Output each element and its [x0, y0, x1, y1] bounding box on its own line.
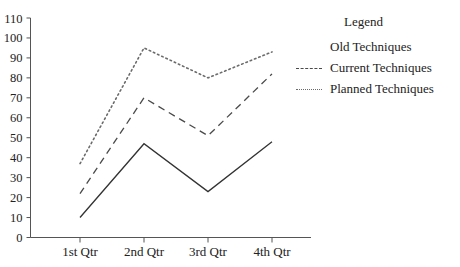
- y-axis-tick-label: 40: [10, 151, 23, 165]
- legend-swatch-dashed-line-icon: [296, 63, 322, 73]
- x-axis-tick-label: 2nd Qtr: [124, 244, 165, 259]
- y-axis-tick-label: 10: [10, 211, 23, 225]
- y-axis-tick-label: 90: [10, 51, 23, 65]
- series-line-solid: [80, 142, 272, 218]
- y-axis-tick-label: 100: [4, 31, 23, 45]
- legend-swatch-solid-line-icon: [296, 42, 322, 52]
- y-axis-tick-label: 60: [10, 111, 23, 125]
- legend-item-current-techniques: Current Techniques: [296, 57, 460, 78]
- x-axis-tick-label: 3rd Qtr: [189, 244, 228, 259]
- y-axis-tick-label: 30: [10, 171, 23, 185]
- y-axis-tick-label: 110: [4, 12, 22, 26]
- legend-swatch-dotted-line-icon: [296, 84, 322, 94]
- line-chart-figure: 0102030405060708090100110 1st Qtr2nd Qtr…: [0, 0, 460, 267]
- chart-legend: Legend Old Techniques Current Techniques…: [296, 14, 460, 99]
- legend-item-old-techniques: Old Techniques: [296, 36, 460, 57]
- x-axis-ticks: [80, 238, 272, 243]
- y-axis-ticks: [27, 18, 31, 238]
- x-axis-tick-labels: 1st Qtr2nd Qtr3rd Qtr4th Qtr: [62, 244, 291, 259]
- legend-item-planned-techniques: Planned Techniques: [296, 78, 460, 99]
- legend-title: Legend: [344, 14, 460, 30]
- y-axis-tick-label: 0: [16, 231, 22, 245]
- legend-item-label: Old Techniques: [330, 40, 412, 53]
- chart-series-group: [80, 48, 272, 218]
- y-axis-tick-labels: 0102030405060708090100110: [4, 12, 23, 246]
- y-axis-tick-label: 80: [10, 71, 23, 85]
- series-line-dashed: [80, 74, 272, 194]
- y-axis-tick-label: 70: [10, 91, 23, 105]
- legend-item-label: Planned Techniques: [330, 82, 434, 95]
- series-line-dotted: [80, 48, 272, 164]
- y-axis-tick-label: 20: [10, 191, 23, 205]
- x-axis-tick-label: 4th Qtr: [253, 244, 291, 259]
- y-axis-tick-label: 50: [10, 131, 23, 145]
- x-axis-tick-label: 1st Qtr: [62, 244, 98, 259]
- legend-item-label: Current Techniques: [330, 61, 432, 74]
